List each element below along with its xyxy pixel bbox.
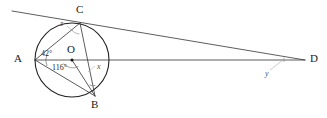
angle-label-a-42: 42° bbox=[41, 50, 52, 58]
leader-line-y bbox=[270, 60, 283, 70]
angle-label-z: z bbox=[60, 20, 63, 28]
figure-canvas bbox=[0, 0, 327, 118]
tangent-line-at-c bbox=[12, 11, 305, 60]
angle-label-o-116: 116° bbox=[52, 64, 67, 72]
vertex-label-d: D bbox=[310, 53, 318, 64]
angle-label-x: x bbox=[97, 63, 101, 71]
geometry-figure: A C B D O 42° 116° x y z bbox=[0, 0, 327, 118]
segment-cb bbox=[80, 23, 95, 96]
vertex-label-c: C bbox=[76, 4, 83, 15]
center-point-dot bbox=[71, 59, 74, 62]
leader-line-z bbox=[67, 26, 73, 31]
vertex-label-b: B bbox=[91, 99, 98, 110]
angle-label-y: y bbox=[265, 70, 269, 78]
vertex-label-a: A bbox=[14, 53, 22, 64]
vertex-label-o: O bbox=[67, 44, 75, 55]
